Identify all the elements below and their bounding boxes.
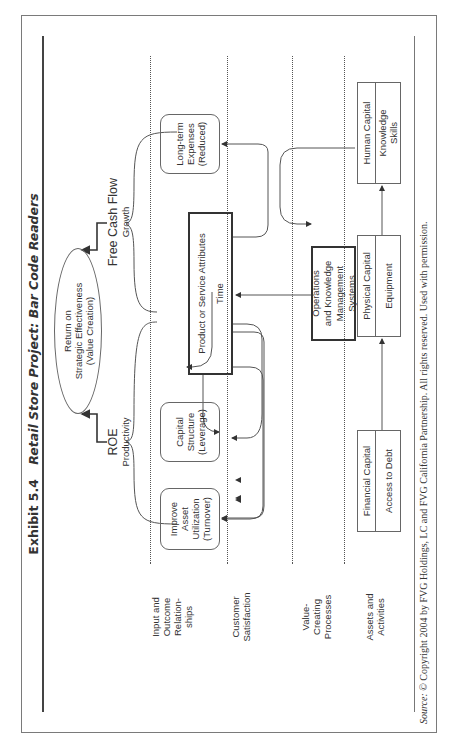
source-text: © Copyright 2004 by FVG Holdings, LC and… [418, 222, 429, 691]
source-lead: Source: [418, 693, 429, 724]
asset-arrows [22, 14, 438, 732]
source-note: Source: © Copyright 2004 by FVG Holdings… [418, 222, 429, 724]
exhibit-page: Exhibit 5.4 Retail Store Project: Bar Co… [21, 15, 437, 733]
footer-rule [414, 36, 415, 712]
